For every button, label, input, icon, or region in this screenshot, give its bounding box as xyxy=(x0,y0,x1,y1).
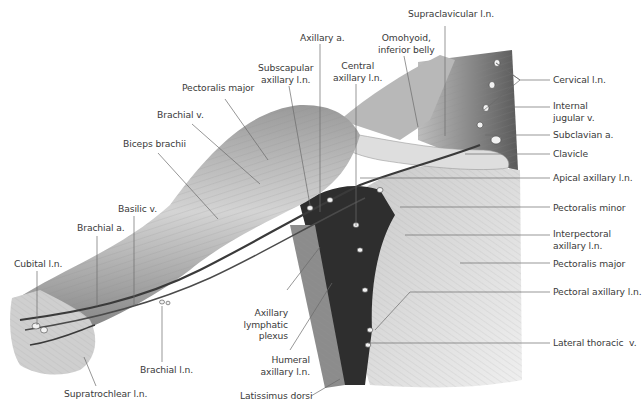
label-supraclavicular-ln: Supraclavicular l.n. xyxy=(408,8,494,20)
label-lateral-thoracic-v: Lateral thoracic v. xyxy=(553,337,636,349)
label-pectoralis-major-right: Pectoralis major xyxy=(553,258,625,270)
illustration-artwork xyxy=(0,0,643,409)
label-pectoralis-minor: Pectoralis minor xyxy=(553,202,625,214)
label-cubital-ln: Cubital l.n. xyxy=(14,258,62,270)
label-central-axillary-ln: Central axillary l.n. xyxy=(333,60,382,83)
label-internal-jugular-v: Internal jugular v. xyxy=(553,100,595,123)
label-apical-axillary-ln: Apical axillary l.n. xyxy=(553,172,633,184)
label-biceps-brachii: Biceps brachii xyxy=(123,138,186,150)
anatomical-illustration: Supraclavicular l.n. Axillary a. Omohyoi… xyxy=(0,0,643,409)
label-brachial-v: Brachial v. xyxy=(157,109,204,121)
label-pectoralis-major-top: Pectoralis major xyxy=(182,82,254,94)
label-supratrochlear-ln: Supratrochlear l.n. xyxy=(64,388,147,400)
label-axillary-a: Axillary a. xyxy=(300,32,345,44)
label-latissimus-dorsi: Latissimus dorsi xyxy=(240,390,312,402)
label-interpectoral-axillary-ln: Interpectoral axillary l.n. xyxy=(553,228,611,251)
label-brachial-ln: Brachial l.n. xyxy=(140,364,193,376)
label-axillary-lymphatic-plexus: Axillary lymphatic plexus xyxy=(243,307,288,342)
label-cervical-ln: Cervical l.n. xyxy=(553,74,606,86)
label-subclavian-a: Subclavian a. xyxy=(553,129,613,141)
label-brachial-a: Brachial a. xyxy=(77,222,125,234)
label-omohyoid: Omohyoid, inferior belly xyxy=(378,32,435,55)
label-clavicle: Clavicle xyxy=(553,148,588,160)
label-humeral-axillary-ln: Humeral axillary l.n. xyxy=(261,354,310,377)
label-subscapular-axillary-ln: Subscapular axillary l.n. xyxy=(258,62,313,85)
leader-supratrochlear-ln xyxy=(84,357,96,386)
label-pectoral-axillary-ln: Pectoral axillary l.n. xyxy=(553,286,642,298)
label-basilic-v: Basilic v. xyxy=(118,203,157,215)
